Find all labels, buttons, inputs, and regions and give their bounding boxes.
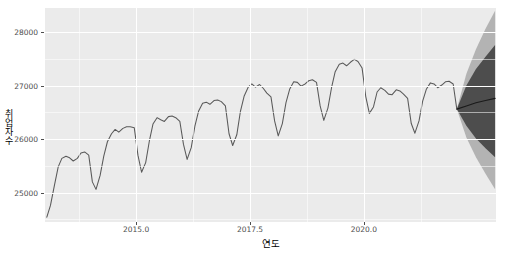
gridline-minor-vertical [79,8,80,222]
plot-panel [45,8,496,222]
x-tick-mark [136,222,137,225]
y-tick-mark [41,32,44,33]
chart-root: 취 업 자 수 25000260002700028000 2015.02017.… [0,0,507,255]
y-tick-label: 28000 [0,28,38,37]
gridline-minor-horizontal [45,112,496,113]
gridline-major-vertical [136,8,137,222]
y-tick-mark [41,86,44,87]
x-tick-label: 2020.0 [351,225,377,234]
y-tick-label: 25000 [0,188,38,197]
gridline-major-horizontal [45,86,496,87]
gridline-minor-vertical [193,8,194,222]
y-tick-mark [41,193,44,194]
x-tick-mark [250,222,251,225]
x-tick-label: 2017.5 [237,225,263,234]
gridline-major-horizontal [45,32,496,33]
y-tick-mark [41,139,44,140]
plot-area [45,8,496,222]
gridline-minor-vertical [307,8,308,222]
gridline-minor-horizontal [45,59,496,60]
gridline-minor-horizontal [45,219,496,220]
x-axis-title: 연도 [45,236,496,250]
gridline-major-horizontal [45,139,496,140]
gridline-minor-horizontal [45,166,496,167]
gridline-major-horizontal [45,193,496,194]
x-tick-label: 2015.0 [123,225,149,234]
gridline-major-vertical [250,8,251,222]
x-tick-mark [364,222,365,225]
gridline-minor-vertical [421,8,422,222]
y-tick-label: 26000 [0,135,38,144]
y-tick-label: 27000 [0,81,38,90]
gridline-major-vertical [364,8,365,222]
